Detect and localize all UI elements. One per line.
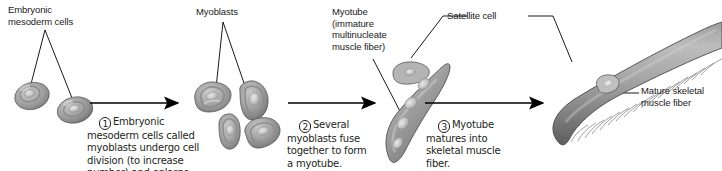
mesoderm-cell-1	[12, 79, 52, 114]
leader-lines-satellite-cell	[411, 16, 572, 62]
stage-mature-skeletal-muscle-fiber	[553, 22, 722, 145]
myoblast-cell-4	[245, 118, 280, 149]
stage-myoblasts	[195, 81, 280, 149]
stage-embryonic-mesoderm-cells	[12, 79, 96, 127]
label-satellite-cell: Satellite cell	[447, 10, 496, 22]
label-myoblasts: Myoblasts	[196, 6, 238, 18]
step-1-number: 1	[99, 117, 112, 130]
label-embryonic-mesoderm-cells: Embryonic mesoderm cells	[8, 4, 73, 27]
step-1: 1Embryonic mesoderm cells called myoblas…	[87, 104, 199, 171]
step-3: 3Myotube matures into skeletal muscle fi…	[426, 107, 528, 171]
myogenesis-diagram: Embryonic mesoderm cells Myoblasts Myotu…	[0, 0, 722, 171]
step-2-number: 2	[299, 120, 312, 133]
myoblast-cell-2	[240, 81, 268, 120]
myoblast-cell-3	[219, 114, 240, 149]
step-2: 2Several myoblasts fuse together to form…	[287, 107, 383, 171]
label-mature-skeletal-muscle-fiber: Mature skeletal muscle fiber	[641, 85, 704, 108]
leader-lines-myoblasts	[216, 22, 245, 88]
myoblast-cell-1	[195, 82, 231, 112]
step-3-number: 3	[438, 120, 451, 133]
label-myotube: Myotube (immature multinucleate muscle f…	[332, 6, 387, 52]
